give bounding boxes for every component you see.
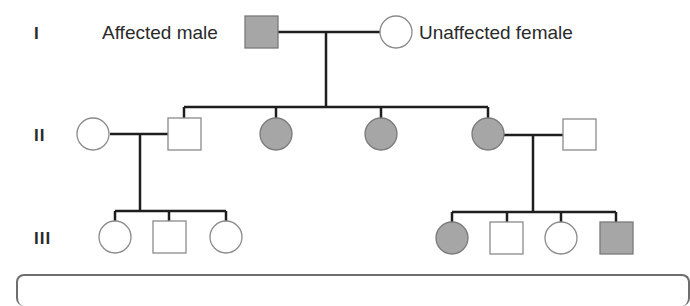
unaffected-female-symbol: [380, 16, 412, 48]
affected-female-symbol: [365, 118, 397, 150]
legend-affected-male: Affected male: [102, 23, 218, 42]
legend-unaffected-female: Unaffected female: [419, 23, 573, 42]
unaffected-male-symbol: [490, 222, 523, 254]
generation-label-II: II: [34, 127, 45, 144]
unaffected-male-symbol: [563, 119, 596, 150]
affected-female-symbol: [436, 222, 468, 254]
unaffected-female-symbol: [99, 221, 131, 253]
unaffected-male-symbol: [168, 118, 201, 150]
unaffected-female-symbol: [545, 222, 577, 254]
affected-female-symbol: [472, 118, 504, 150]
unaffected-female-symbol: [210, 221, 242, 253]
generation-label-III: III: [34, 230, 51, 247]
generation-label-I: I: [34, 25, 40, 42]
caption-box-border: [16, 274, 690, 306]
affected-male-symbol: [600, 222, 633, 254]
affected-female-symbol: [260, 118, 292, 150]
unaffected-female-symbol: [77, 118, 109, 150]
unaffected-male-symbol: [153, 221, 186, 253]
affected-male-symbol: [245, 16, 278, 48]
